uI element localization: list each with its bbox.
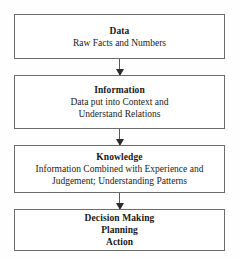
node-information: Information Data put into Context and Un…	[14, 75, 225, 129]
node-data-heading: Data	[110, 25, 130, 37]
node-information-line-1: Data put into Context and	[70, 96, 168, 108]
node-information-line-2: Understand Relations	[78, 108, 160, 120]
node-decision-heading: Decision Making	[85, 212, 155, 224]
node-knowledge-line-1: Information Combined with Experience and	[36, 163, 204, 175]
connector-knowledge-to-decision	[119, 193, 120, 209]
node-decision: Decision Making Planning Action	[14, 209, 225, 251]
node-decision-line-1: Planning	[101, 224, 137, 236]
connector-data-to-information	[119, 59, 120, 75]
node-knowledge-line-2: Judgement; Understanding Patterns	[52, 175, 187, 187]
node-data-line-1: Raw Facts and Numbers	[73, 37, 166, 49]
flow-diagram: Data Raw Facts and Numbers Information D…	[0, 0, 239, 260]
node-knowledge: Knowledge Information Combined with Expe…	[14, 145, 225, 193]
node-decision-line-2: Action	[106, 236, 133, 248]
connector-information-to-knowledge	[119, 129, 120, 145]
node-data: Data Raw Facts and Numbers	[14, 14, 225, 59]
node-information-heading: Information	[94, 84, 145, 96]
node-knowledge-heading: Knowledge	[96, 151, 142, 163]
